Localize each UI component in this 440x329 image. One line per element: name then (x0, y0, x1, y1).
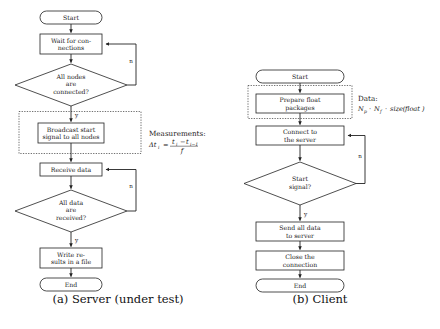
server-node-alldata-label-3: received? (56, 214, 87, 221)
client-node-startsignal-label-2: signal? (289, 183, 312, 191)
server-node-end: End (40, 278, 102, 291)
client-node-start-label: Start (292, 73, 308, 80)
client-formula-close-paren: ) (421, 105, 425, 113)
server-node-alldata-label-1: All data (58, 199, 84, 206)
server-node-broadcast-label-2: signal to all nodes (42, 133, 99, 141)
client-node-prepare-label-2: packages (285, 104, 314, 112)
client-node-startsignal-label-1: Start (292, 175, 308, 182)
server-node-write-label-1: Write re- (57, 251, 85, 258)
client-node-close-label-2: connection (283, 261, 317, 268)
server-node-end-label: End (65, 281, 78, 288)
server-branch-allnodes-no: n (129, 58, 133, 64)
client-formula-dot-2: · (385, 105, 387, 113)
client-node-start: Start (256, 70, 344, 83)
server-branch-alldata-no: n (129, 183, 133, 189)
server-node-wait: Wait for con- nections (40, 34, 102, 54)
caption-server: (a) Server (under test) (52, 292, 183, 306)
client-node-send-label-2: to server (286, 232, 314, 239)
server-formula-num-a: t (172, 138, 175, 146)
client-node-end-label: End (294, 282, 307, 289)
server-formula-equals: = (163, 141, 169, 149)
client-node-send-label-1: Send all data (279, 224, 321, 231)
server-node-receive-label: Receive data (51, 166, 92, 173)
flowchart-canvas: Start Wait for con- nections All nodes a… (0, 0, 440, 329)
server-node-receive: Receive data (40, 163, 102, 176)
server-node-allnodes-label-3: connected? (53, 88, 89, 95)
client-formula-float: float (404, 105, 420, 113)
client-node-connect-label-1: Connect to (283, 128, 317, 135)
server-formula-num-minus: − (180, 138, 186, 146)
client-annotation-title: Data: (358, 94, 378, 103)
server-annotation-title: Measurements: (149, 129, 206, 138)
client-node-close: Close the connection (256, 251, 344, 270)
server-node-broadcast: Broadcast start signal to all nodes (38, 123, 104, 143)
caption-client: (b) Client (293, 292, 348, 306)
client-node-end: End (256, 279, 344, 292)
client-node-connect: Connect to the server (256, 126, 344, 145)
client-node-close-label-1: Close the (285, 253, 315, 260)
client-node-connect-label-2: the server (284, 136, 316, 143)
server-formula-lhs: Δt (148, 141, 157, 149)
client-formula-dot-1: · (369, 105, 371, 113)
server-node-start-label: Start (63, 14, 79, 21)
server-node-start: Start (40, 11, 102, 24)
client-formula-np-sub: p (364, 109, 367, 114)
server-node-alldata-label-2: are (66, 206, 77, 213)
client-formula-nf: N (373, 105, 380, 113)
flowchart-figure: Start Wait for con- nections All nodes a… (0, 0, 440, 329)
server-node-wait-label-2: nections (58, 44, 84, 51)
server-formula-num-b: t (186, 138, 189, 146)
server-node-allnodes-label-1: All nodes (56, 73, 86, 80)
server-node-wait-label-1: Wait for con- (51, 37, 91, 44)
server-node-broadcast-label-1: Broadcast start (47, 126, 96, 133)
client-formula-size: size( (390, 105, 406, 113)
client-formula-np: N (357, 105, 364, 113)
server-node-allnodes-label-2: are (66, 80, 77, 87)
server-node-write-label-2: sults in a file (51, 258, 91, 265)
client-branch-startsignal-no: n (358, 153, 362, 159)
client-node-send: Send all data to server (256, 222, 344, 241)
server-node-write: Write re- sults in a file (40, 248, 102, 268)
client-node-prepare: Prepare float packages (256, 94, 344, 113)
